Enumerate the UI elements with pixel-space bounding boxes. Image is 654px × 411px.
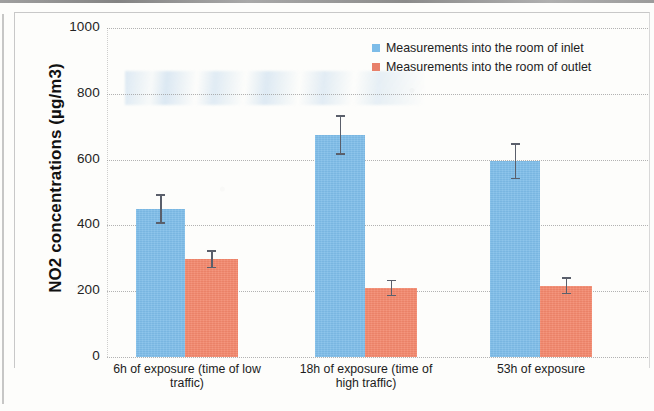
y-axis-tick-label: 0 [40,348,100,363]
x-axis-tick-labels: 6h of exposure (time of lowtraffic)18h o… [107,362,648,408]
x-axis-tick-label-group-2: 18h of exposure (time ofhigh traffic) [286,362,446,390]
legend-item-outlet[interactable]: Measurements into the room of outlet [372,57,591,76]
x-axis-tick-label-line: high traffic) [336,376,397,390]
gridline [107,94,648,95]
bar-inlet-group-2 [315,135,365,357]
gridline [107,357,648,358]
x-axis-tick-label-line: traffic) [170,376,204,390]
scan-artifact-left-line [2,14,4,404]
y-axis-tick-label: 1000 [40,19,100,34]
error-bar-stem [340,115,342,154]
error-bar-outlet-group-2 [387,280,396,296]
plot-area [107,28,648,357]
scan-artifact-top-line [0,0,654,3]
error-bar-stem [211,250,213,268]
legend-item-inlet[interactable]: Measurements into the room of inlet [372,38,591,57]
x-axis-tick-label-line: 6h of exposure (time of low [113,362,261,376]
error-bar-cap-bottom [562,293,571,295]
x-axis-tick-label-line: 18h of exposure (time of [300,362,433,376]
x-axis-tick-label-group-1: 6h of exposure (time of lowtraffic) [101,362,273,390]
error-bar-cap-bottom [207,267,216,269]
error-bar-cap-bottom [387,295,396,297]
error-bar-cap-bottom [511,178,520,180]
x-axis-tick-label-group-3: 53h of exposure [471,362,611,376]
legend-item-label: Measurements into the room of outlet [386,60,591,74]
legend-swatch-inlet-icon [372,44,380,52]
y-axis-tick-label: 400 [40,216,100,231]
error-bar-stem [515,143,517,179]
bar-inlet-group-1 [136,209,185,357]
x-axis-tick-label-line: 53h of exposure [497,362,585,376]
error-bar-outlet-group-1 [207,250,216,268]
error-bar-stem [160,194,162,224]
bar-inlet-group-3 [490,161,540,357]
y-axis-tick-label: 200 [40,282,100,297]
error-bar-inlet-group-1 [156,194,165,224]
error-bar-cap-bottom [156,222,165,224]
bar-outlet-group-3 [540,286,592,357]
legend-item-label: Measurements into the room of inlet [386,41,584,55]
legend-swatch-outlet-icon [372,63,380,71]
y-axis-tick-label: 600 [40,151,100,166]
gridline [107,225,648,226]
error-bar-cap-bottom [336,153,345,155]
y-axis-tick-labels: 10008006004002000 [37,28,100,357]
chart-legend: Measurements into the room of inletMeasu… [372,38,591,76]
error-bar-inlet-group-3 [511,143,520,179]
error-bar-inlet-group-2 [336,115,345,154]
y-axis-tick-label: 800 [40,85,100,100]
error-bar-outlet-group-3 [562,277,571,294]
bar-outlet-group-1 [185,259,238,357]
gridline [107,28,648,29]
gridline [107,160,648,161]
bar-outlet-group-2 [365,288,417,357]
